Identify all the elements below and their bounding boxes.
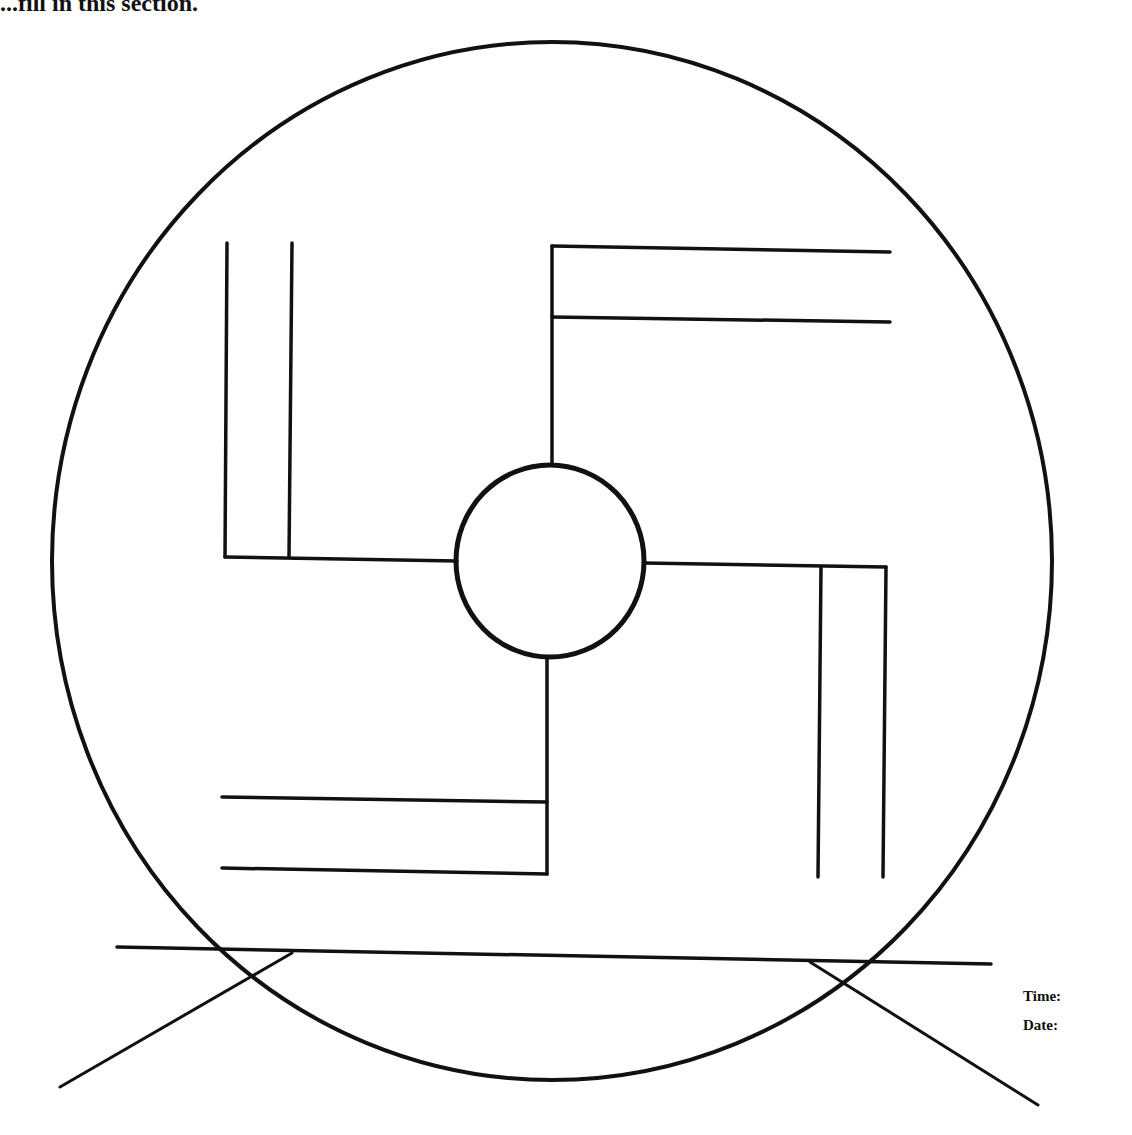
bottom-right-arm-segment-0 xyxy=(644,563,886,567)
bottom-right-arm-segment-2 xyxy=(883,567,886,877)
top-right-arm-segment-2 xyxy=(552,317,890,322)
stand-right-leg xyxy=(810,962,1038,1105)
top-right-arm-segment-1 xyxy=(552,246,890,252)
top-left-arm-segment-2 xyxy=(225,557,457,561)
bottom-left-arm-segment-1 xyxy=(222,797,547,802)
date-label: Date: xyxy=(1023,1017,1058,1034)
bottom-left-arm-segment-2 xyxy=(222,868,547,874)
outer-circle xyxy=(52,42,1052,1080)
bottom-right-arm-segment-1 xyxy=(818,567,821,877)
stand-left-leg xyxy=(60,953,292,1087)
circle-symbol-diagram xyxy=(0,0,1132,1135)
inner-circle xyxy=(456,465,644,657)
top-left-arm-segment-1 xyxy=(289,243,292,557)
top-left-arm-segment-0 xyxy=(225,243,227,557)
time-label: Time: xyxy=(1023,988,1061,1005)
stand-base-line xyxy=(117,947,991,964)
